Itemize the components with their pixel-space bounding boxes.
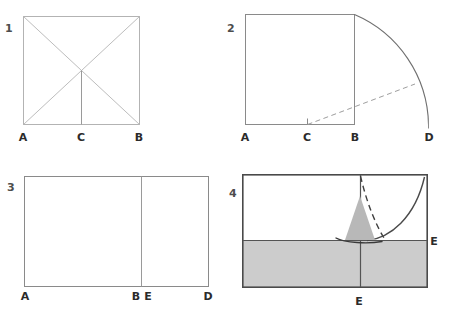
figure-canvas: 1 A C B 2 A C B D: [0, 0, 452, 318]
panel-2-label-b: B: [351, 131, 359, 144]
panel-2-number: 2: [227, 22, 235, 35]
panel-3-label-e: E: [144, 290, 152, 303]
panel-3-label-b: B: [132, 290, 140, 303]
panel-2-label-a: A: [241, 131, 250, 144]
panel-1-number: 1: [5, 22, 13, 35]
panel-2-label-d: D: [424, 131, 433, 144]
construction-figure: 1 A C B 2 A C B D: [0, 0, 452, 318]
panel-4-label-e-bottom: E: [355, 295, 363, 308]
panel-2-label-c: C: [303, 131, 311, 144]
panel-3-number: 3: [7, 181, 15, 194]
panel-3-label-a: A: [21, 290, 30, 303]
panel-1-label-c: C: [77, 131, 85, 144]
panel-4-shaded-region: [243, 240, 427, 287]
panel-4-number: 4: [229, 187, 237, 200]
panel-4-label-e-right: E: [430, 235, 438, 248]
panel-1-label-a: A: [19, 131, 28, 144]
panel-1-label-b: B: [135, 131, 143, 144]
panel-3-label-d: D: [203, 290, 212, 303]
